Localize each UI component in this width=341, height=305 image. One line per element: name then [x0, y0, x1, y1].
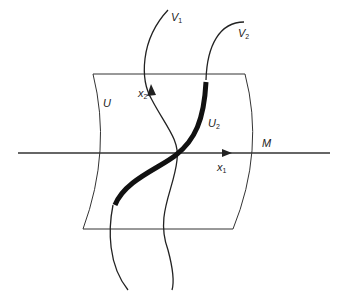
sheet-right-edge — [233, 74, 253, 229]
x1-arrow-icon — [222, 149, 232, 157]
label-x2: x2 — [138, 88, 147, 100]
label-U2: U2 — [208, 118, 220, 130]
label-U: U — [103, 98, 111, 109]
diagram-drawing — [0, 0, 341, 305]
label-V1: V1 — [171, 12, 182, 24]
x2-arrow-icon — [147, 84, 156, 96]
submanifold-U2-thick — [115, 82, 206, 205]
label-V2: V2 — [238, 28, 249, 40]
label-M: M — [262, 138, 271, 149]
label-x1: x1 — [217, 162, 226, 174]
curve-V1 — [144, 10, 177, 290]
diagram-canvas: V1 V2 x2 U U2 M x1 — [0, 0, 341, 305]
sheet-left-edge — [83, 74, 101, 229]
